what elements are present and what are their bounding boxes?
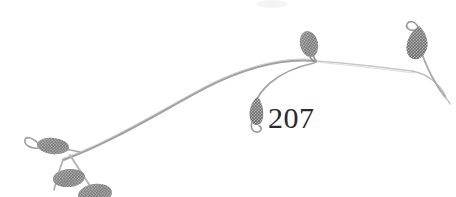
leaf-top-center bbox=[297, 29, 320, 62]
illustration-plate: 207 bbox=[0, 0, 456, 197]
hanging-leaf-stalk bbox=[256, 63, 314, 102]
botanical-illustration bbox=[0, 0, 456, 197]
leaf-hanging-center bbox=[250, 97, 264, 132]
leaf-left-curled bbox=[25, 136, 70, 155]
leaf-right-curled bbox=[407, 22, 428, 60]
leaf-lower-left-lower bbox=[77, 182, 113, 197]
paper-smudge bbox=[256, 0, 288, 8]
figure-number-label: 207 bbox=[268, 103, 315, 133]
